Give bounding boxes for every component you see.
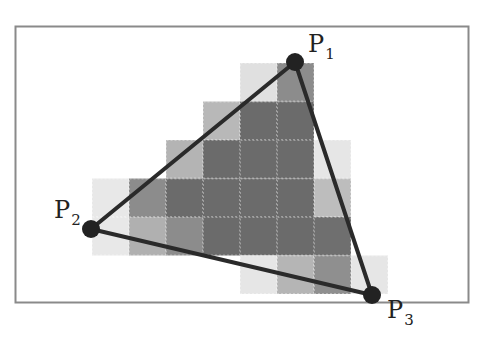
pixel-cell [314, 217, 351, 256]
vertex-p2 [82, 220, 100, 238]
rasterization-diagram: P1P2P3 [0, 0, 481, 342]
pixel-cell [240, 140, 277, 179]
pixel-cell [277, 179, 314, 218]
pixel-cell [240, 217, 277, 256]
vertex-p3 [363, 286, 381, 304]
pixel-cell [240, 102, 277, 141]
pixel-cell [277, 140, 314, 179]
pixel-cell [129, 217, 166, 256]
pixel-cell [203, 140, 240, 179]
pixel-cell [240, 256, 277, 295]
pixel-cell [166, 179, 203, 218]
pixel-cell [203, 179, 240, 218]
pixel-cell [166, 140, 203, 179]
pixel-cell [277, 217, 314, 256]
pixel-cell [203, 217, 240, 256]
pixel-cell [240, 179, 277, 218]
vertex-p1 [286, 53, 304, 71]
